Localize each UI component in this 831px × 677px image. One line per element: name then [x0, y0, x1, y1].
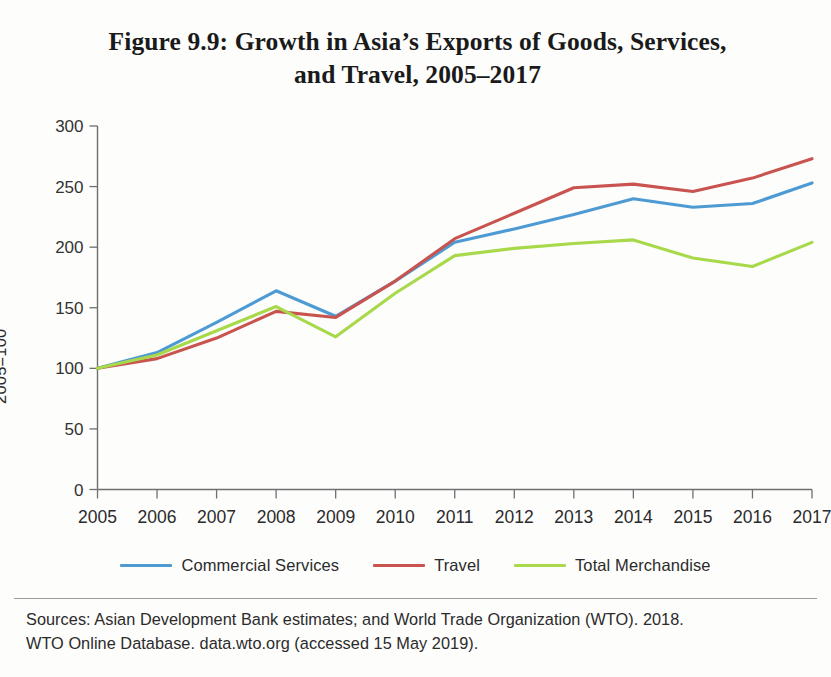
- series-lines: [98, 159, 813, 369]
- x-axis-ticks: 2005200620072008200920102011201220132014…: [78, 490, 831, 527]
- x-tick-label: 2006: [138, 507, 177, 527]
- y-axis-ticks: 050100150200250300: [55, 117, 97, 500]
- page-title: Figure 9.9: Growth in Asia’s Exports of …: [60, 26, 775, 91]
- y-tick-label: 0: [74, 481, 83, 500]
- y-tick-label: 150: [55, 299, 83, 318]
- y-tick-label: 100: [55, 359, 83, 378]
- series-line-total-merchandise: [98, 240, 813, 368]
- legend-label: Travel: [434, 556, 480, 575]
- source-line-1: Sources: Asian Development Bank estimate…: [26, 608, 816, 632]
- x-tick-label: 2008: [257, 507, 296, 527]
- x-tick-label: 2005: [78, 507, 117, 527]
- y-tick-label: 200: [55, 238, 83, 257]
- y-tick-label: 250: [55, 178, 83, 197]
- x-tick-label: 2012: [495, 507, 534, 527]
- x-tick-label: 2016: [733, 507, 772, 527]
- legend-label: Total Merchandise: [575, 556, 711, 575]
- title-line-2: and Travel, 2005–2017: [60, 59, 775, 92]
- y-axis-title: 2005=100: [0, 329, 10, 404]
- x-tick-label: 2011: [436, 507, 474, 527]
- x-tick-label: 2015: [673, 507, 712, 527]
- x-tick-label: 2017: [793, 507, 831, 527]
- source-divider: [14, 598, 817, 599]
- legend-item-total-merchandise[interactable]: Total Merchandise: [514, 556, 711, 575]
- legend-swatch-icon: [514, 564, 566, 567]
- x-tick-label: 2014: [614, 507, 653, 527]
- x-tick-label: 2007: [197, 507, 236, 527]
- x-tick-label: 2010: [376, 507, 415, 527]
- y-tick-label: 300: [55, 117, 83, 136]
- title-line-1: Figure 9.9: Growth in Asia’s Exports of …: [60, 26, 775, 59]
- legend-swatch-icon: [120, 564, 172, 567]
- plot-area: 2005=100 050100150200250300 200520062007…: [0, 108, 831, 538]
- x-tick-label: 2009: [316, 507, 355, 527]
- legend-item-commercial-services[interactable]: Commercial Services: [120, 556, 339, 575]
- legend-label: Commercial Services: [181, 556, 339, 575]
- source-line-2: WTO Online Database. data.wto.org (acces…: [26, 632, 816, 656]
- figure-container: Figure 9.9: Growth in Asia’s Exports of …: [0, 0, 831, 677]
- source-note: Sources: Asian Development Bank estimate…: [26, 608, 816, 656]
- legend-swatch-icon: [373, 564, 425, 567]
- chart-legend: Commercial ServicesTravelTotal Merchandi…: [0, 556, 831, 575]
- legend-item-travel[interactable]: Travel: [373, 556, 480, 575]
- y-tick-label: 50: [65, 420, 84, 439]
- x-tick-label: 2013: [554, 507, 593, 527]
- line-chart-svg: 050100150200250300 200520062007200820092…: [0, 108, 831, 538]
